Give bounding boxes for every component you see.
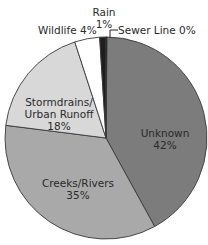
label-storm-line2: Urban Runoff: [24, 108, 94, 120]
label-creeks-name: Creeks/Rivers: [38, 177, 118, 189]
label-rain-name: Rain: [92, 6, 116, 18]
label-creeks-pct: 35%: [38, 189, 118, 201]
label-unknown-pct: 42%: [130, 139, 200, 151]
label-unknown-name: Unknown: [130, 127, 200, 139]
label-sewer-line: Sewer Line 0%: [118, 24, 202, 36]
label-storm-pct: 18%: [24, 120, 94, 132]
label-rain: Rain 1%: [92, 6, 116, 30]
label-stormdrains: Stormdrains/ Urban Runoff 18%: [24, 96, 94, 132]
label-storm-line1: Stormdrains/: [24, 96, 94, 108]
label-rain-pct: 1%: [92, 18, 116, 30]
label-creeks: Creeks/Rivers 35%: [38, 177, 118, 201]
label-unknown: Unknown 42%: [130, 127, 200, 151]
label-wildlife: Wildlife 4%: [38, 24, 94, 36]
